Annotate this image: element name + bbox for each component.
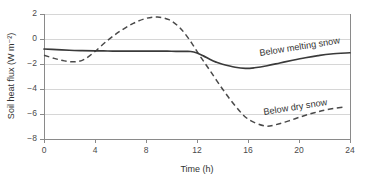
y-tick-label-0: 0 xyxy=(32,33,37,43)
y-tick-label-minus4: −4 xyxy=(27,83,37,93)
y-tick-label-2: 2 xyxy=(32,8,37,18)
x-tick-label-24: 24 xyxy=(345,145,355,155)
x-tick-label-8: 8 xyxy=(144,145,149,155)
y-axis-title: Soil heat flux (W m⁻²) xyxy=(6,33,16,119)
soil-heat-flux-chart-figure: 2 0 −2 −4 −6 −8 0 4 8 12 16 20 24 Time (… xyxy=(0,0,366,184)
x-tick-label-0: 0 xyxy=(42,145,47,155)
x-tickmarks xyxy=(44,139,350,143)
y-tick-label-minus2: −2 xyxy=(27,58,37,68)
y-tickmarks xyxy=(40,14,44,139)
x-axis-title: Time (h) xyxy=(180,164,213,174)
chart-canvas: 2 0 −2 −4 −6 −8 0 4 8 12 16 20 24 Time (… xyxy=(0,0,366,184)
y-tick-label-minus8: −8 xyxy=(27,133,37,143)
x-tick-label-4: 4 xyxy=(93,145,98,155)
y-tick-labels: 2 0 −2 −4 −6 −8 xyxy=(27,8,37,143)
x-tick-label-20: 20 xyxy=(294,145,304,155)
horizontal-gridlines xyxy=(44,14,350,114)
x-tick-label-16: 16 xyxy=(243,145,253,155)
y-tick-label-minus6: −6 xyxy=(27,108,37,118)
x-tick-labels: 0 4 8 12 16 20 24 xyxy=(42,145,355,155)
x-tick-label-12: 12 xyxy=(192,145,202,155)
